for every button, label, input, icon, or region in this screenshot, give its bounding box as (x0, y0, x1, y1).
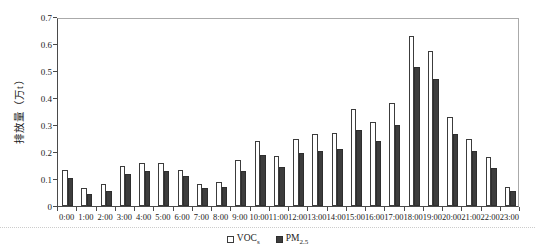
y-tick-mark (53, 152, 57, 153)
x-tick-mark (519, 207, 520, 211)
x-tick-mark (500, 207, 501, 211)
x-tick-mark (250, 207, 251, 211)
legend-item-vocs: VOCs (227, 233, 260, 246)
plot-area (57, 18, 519, 207)
bar-pm25-4:00 (145, 171, 151, 206)
bar-pm25-1:00 (87, 194, 93, 206)
y-tick-label-0.7: 0.7 (26, 13, 52, 23)
legend-label-vocs: VOCs (237, 233, 260, 246)
bar-pm25-15:00 (356, 130, 362, 206)
bar-pm25-22:00 (491, 168, 497, 206)
bar-pm25-18:00 (414, 67, 420, 206)
y-tick-label-0.5: 0.5 (26, 67, 52, 77)
y-tick-label-0: 0 (26, 202, 52, 212)
y-tick-mark (53, 71, 57, 72)
bar-pm25-5:00 (164, 171, 170, 206)
bar-pm25-0:00 (68, 178, 74, 206)
legend: VOCs PM2.5 (0, 233, 535, 246)
x-tick-mark (461, 207, 462, 211)
y-tick-mark (53, 44, 57, 45)
vocs-swatch-icon (227, 236, 234, 243)
x-tick-label-23:00: 23:00 (494, 212, 524, 222)
bar-pm25-13:00 (318, 151, 324, 206)
bar-pm25-16:00 (376, 141, 382, 206)
bar-pm25-6:00 (183, 176, 189, 206)
x-tick-mark (481, 207, 482, 211)
y-tick-label-0.6: 0.6 (26, 40, 52, 50)
x-tick-mark (269, 207, 270, 211)
x-tick-mark (423, 207, 424, 211)
bar-pm25-19:00 (433, 79, 439, 206)
bar-pm25-8:00 (222, 187, 228, 206)
bar-pm25-21:00 (472, 151, 478, 206)
y-tick-mark (53, 98, 57, 99)
bar-pm25-9:00 (241, 171, 247, 206)
y-tick-label-0.1: 0.1 (26, 175, 52, 185)
bar-pm25-23:00 (510, 191, 516, 206)
caption-divider-line (0, 227, 535, 228)
bar-pm25-7:00 (202, 188, 208, 206)
x-tick-mark (153, 207, 154, 211)
x-tick-mark (96, 207, 97, 211)
y-tick-mark (53, 179, 57, 180)
y-axis-title: 排放量（万t） (11, 55, 25, 163)
bar-pm25-17:00 (395, 125, 401, 206)
bar-pm25-12:00 (299, 153, 305, 206)
x-tick-mark (230, 207, 231, 211)
bar-pm25-3:00 (125, 174, 131, 206)
y-tick-mark (53, 17, 57, 18)
x-tick-mark (76, 207, 77, 211)
x-tick-mark (288, 207, 289, 211)
bar-pm25-10:00 (260, 155, 266, 206)
x-tick-mark (173, 207, 174, 211)
x-tick-mark (384, 207, 385, 211)
y-tick-label-0.2: 0.2 (26, 148, 52, 158)
x-tick-mark (442, 207, 443, 211)
y-tick-mark (53, 125, 57, 126)
bar-pm25-14:00 (337, 149, 343, 206)
y-tick-label-0.3: 0.3 (26, 121, 52, 131)
emissions-bar-chart: 排放量（万t） 00.10.20.30.40.50.60.70:001:002:… (0, 0, 535, 250)
bar-pm25-11:00 (279, 167, 285, 206)
x-tick-mark (404, 207, 405, 211)
x-tick-mark (327, 207, 328, 211)
legend-label-pm25: PM2.5 (286, 233, 308, 246)
x-tick-mark (346, 207, 347, 211)
x-tick-mark (57, 207, 58, 211)
x-tick-mark (307, 207, 308, 211)
y-tick-label-0.4: 0.4 (26, 94, 52, 104)
x-tick-mark (211, 207, 212, 211)
legend-item-pm25: PM2.5 (276, 233, 308, 246)
x-tick-mark (365, 207, 366, 211)
bar-pm25-2:00 (106, 191, 112, 206)
bar-pm25-20:00 (453, 134, 459, 206)
x-tick-mark (115, 207, 116, 211)
pm25-swatch-icon (276, 236, 283, 243)
x-tick-mark (192, 207, 193, 211)
x-tick-mark (134, 207, 135, 211)
